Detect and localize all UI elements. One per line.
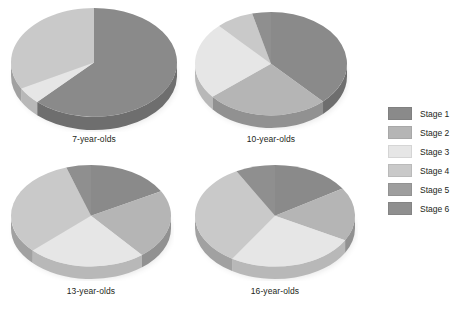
legend-item: Stage 2: [388, 123, 465, 142]
pie-svg-0: [8, 6, 180, 132]
legend-item: Stage 3: [388, 142, 465, 161]
pie-svg-2: [8, 163, 174, 281]
legend-item: Stage 4: [388, 161, 465, 180]
legend-swatch-stage-5: [388, 183, 412, 196]
pie-cell-16-year-olds: 16-year-olds: [192, 163, 358, 308]
pie-label-13-year-olds: 13-year-olds: [8, 286, 174, 296]
legend-swatch-stage-2: [388, 126, 412, 139]
legend-swatch-stage-1: [388, 107, 412, 120]
legend-label-stage-6: Stage 6: [420, 204, 449, 214]
pie-label-16-year-olds: 16-year-olds: [192, 286, 358, 296]
legend-label-stage-1: Stage 1: [420, 109, 449, 119]
legend-swatch-stage-6: [388, 202, 412, 215]
pie-cell-13-year-olds: 13-year-olds: [8, 163, 174, 308]
legend: Stage 1 Stage 2 Stage 3 Stage 4 Stage 5 …: [388, 104, 465, 218]
pie-svg-3: [192, 163, 358, 281]
pie-svg-1: [192, 10, 350, 130]
legend-swatch-stage-4: [388, 164, 412, 177]
legend-label-stage-2: Stage 2: [420, 128, 449, 138]
legend-label-stage-4: Stage 4: [420, 166, 449, 176]
pie-label-10-year-olds: 10-year-olds: [192, 134, 350, 144]
legend-item: Stage 6: [388, 199, 465, 218]
pie-chart-figure: 7-year-olds 10-year-olds 13-year-olds 16…: [0, 0, 465, 310]
legend-item: Stage 5: [388, 180, 465, 199]
legend-label-stage-5: Stage 5: [420, 185, 449, 195]
legend-swatch-stage-3: [388, 145, 412, 158]
pie-cell-10-year-olds: 10-year-olds: [192, 10, 350, 151]
legend-item: Stage 1: [388, 104, 465, 123]
legend-label-stage-3: Stage 3: [420, 147, 449, 157]
pie-label-7-year-olds: 7-year-olds: [8, 134, 180, 144]
pie-cell-7-year-olds: 7-year-olds: [8, 6, 180, 151]
